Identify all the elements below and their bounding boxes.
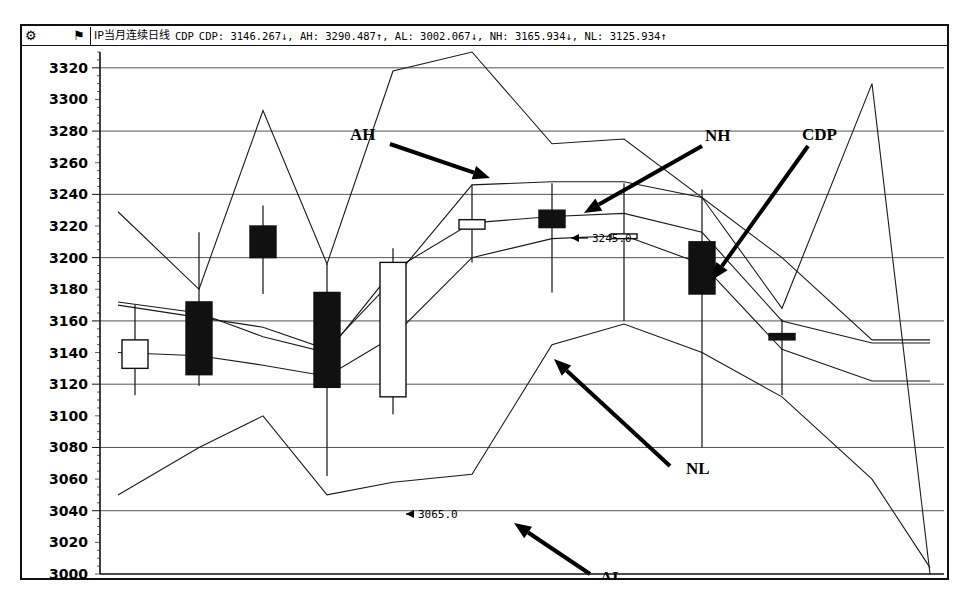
y-axis-labels: 3000302030403060308031003120314031603180… bbox=[49, 60, 88, 580]
y-axis-tick-label: 3040 bbox=[49, 503, 88, 519]
candle-body bbox=[689, 242, 715, 294]
annotation-label-nl: NL bbox=[686, 459, 710, 478]
candlestick-chart[interactable]: 3000302030403060308031003120314031603180… bbox=[22, 46, 947, 580]
flag-icon[interactable]: ⚑ bbox=[72, 29, 86, 43]
series-line-nh bbox=[118, 213, 930, 352]
annotation-arrow-al bbox=[528, 532, 590, 574]
y-axis-tick-label: 3220 bbox=[49, 218, 88, 234]
annotation-label-cdp: CDP bbox=[802, 125, 837, 144]
annotation-arrow-ah bbox=[390, 144, 474, 173]
candle-body bbox=[380, 262, 406, 396]
candle-body bbox=[459, 220, 485, 229]
app-root: ⚙ ⚑ IP当月连续日线 CDP CDP: 3146.267↓, AH: 329… bbox=[0, 0, 969, 603]
annotation-arrowhead-al bbox=[514, 523, 532, 538]
candlestick bbox=[314, 264, 340, 476]
candlestick bbox=[689, 190, 715, 448]
y-axis-tick-label: 3280 bbox=[49, 123, 88, 139]
cdp-high-callout-arrowhead bbox=[571, 234, 579, 242]
y-axis-tick-label: 3160 bbox=[49, 313, 88, 329]
cdp-low-callout: 3065.0 bbox=[418, 508, 458, 521]
y-axis-tick-label: 3000 bbox=[49, 566, 88, 580]
y-axis-tick-label: 3240 bbox=[49, 186, 88, 202]
y-axis-tick-label: 3020 bbox=[49, 534, 88, 550]
chart-header-bar: ⚙ ⚑ IP当月连续日线 CDP CDP: 3146.267↓, AH: 329… bbox=[22, 26, 947, 46]
candle-body bbox=[122, 340, 148, 368]
y-axis-tick-label: 3180 bbox=[49, 281, 88, 297]
candlesticks bbox=[122, 183, 795, 476]
y-axis-tick-label: 3100 bbox=[49, 408, 88, 424]
y-axis-tick-label: 3120 bbox=[49, 376, 88, 392]
y-axis-tick-label: 3300 bbox=[49, 91, 88, 107]
annotation-arrow-nh bbox=[599, 146, 702, 205]
axis-ticks bbox=[92, 52, 100, 574]
candlestick bbox=[122, 305, 148, 395]
y-axis-tick-label: 3320 bbox=[49, 60, 88, 76]
chart-title: IP当月连续日线 bbox=[90, 27, 170, 45]
gear-icon[interactable]: ⚙ bbox=[24, 29, 38, 43]
candle-body bbox=[186, 302, 212, 375]
annotation-label-ah: AH bbox=[350, 125, 376, 144]
candle-body bbox=[314, 292, 340, 387]
y-axis-tick-label: 3140 bbox=[49, 345, 88, 361]
candle-body bbox=[769, 334, 795, 340]
annotation-label-nh: NH bbox=[705, 126, 731, 145]
y-axis-tick-label: 3080 bbox=[49, 439, 88, 455]
indicator-readout: CDP: 3146.267↓, AH: 3290.487↑, AL: 3002.… bbox=[199, 27, 667, 45]
chart-window: ⚙ ⚑ IP当月连续日线 CDP CDP: 3146.267↓, AH: 329… bbox=[20, 24, 949, 580]
y-axis-tick-label: 3260 bbox=[49, 155, 88, 171]
annotation-arrowhead-ah bbox=[472, 166, 490, 179]
candlestick bbox=[611, 183, 637, 321]
candle-body bbox=[539, 210, 565, 227]
series-line-cdp bbox=[118, 182, 930, 350]
candlestick bbox=[186, 232, 212, 385]
candlestick bbox=[250, 205, 276, 294]
cdp-high-callout: 3245.0 bbox=[592, 232, 632, 245]
candlestick bbox=[380, 248, 406, 414]
candle-body bbox=[250, 226, 276, 258]
y-axis-tick-label: 3200 bbox=[49, 250, 88, 266]
annotation-arrow-cdp bbox=[722, 146, 808, 266]
annotation-arrow-nl bbox=[566, 371, 670, 466]
y-axis-tick-label: 3060 bbox=[49, 471, 88, 487]
plot-area[interactable]: 3000302030403060308031003120314031603180… bbox=[22, 46, 947, 580]
indicator-name: CDP bbox=[175, 30, 194, 42]
